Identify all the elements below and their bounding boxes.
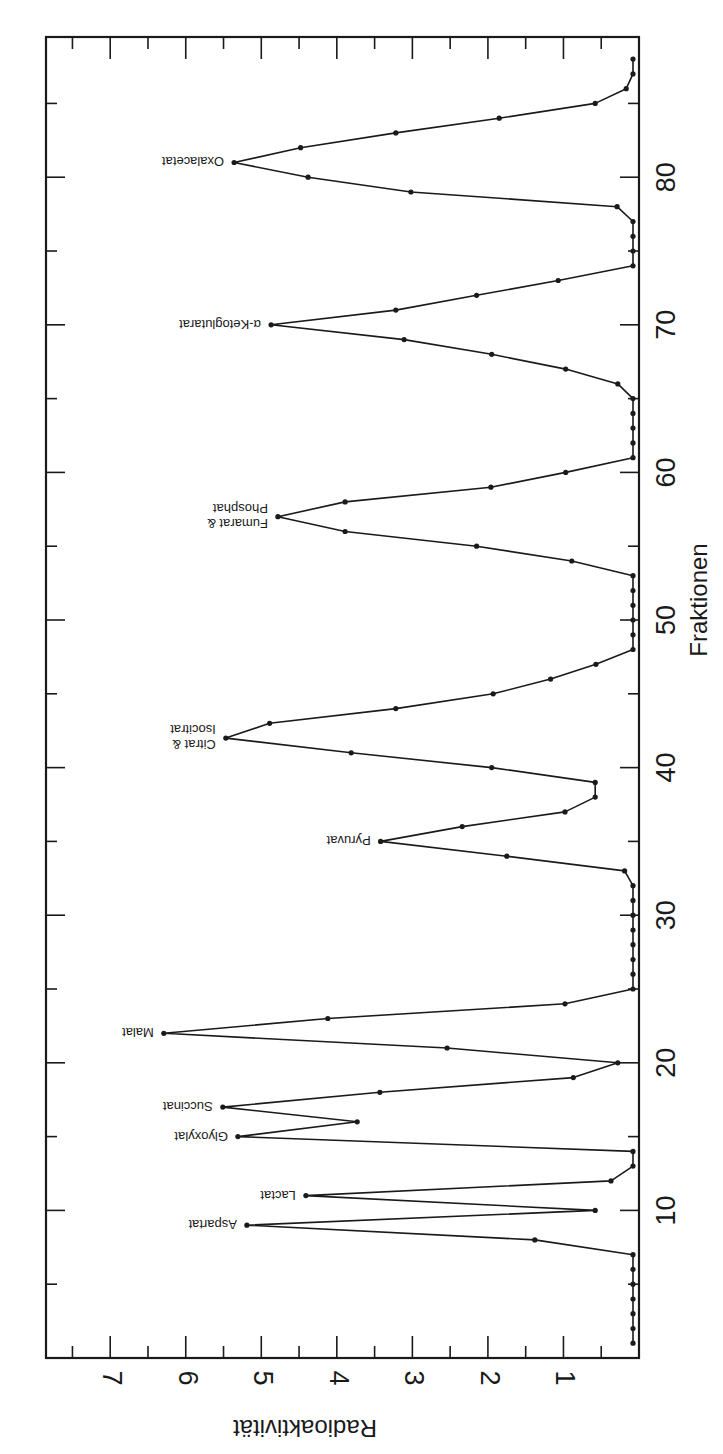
- data-point: [630, 1296, 635, 1301]
- peak-label: Fumarat &Phosphat: [207, 501, 268, 531]
- peak-label: Oxalacetat: [162, 154, 225, 169]
- data-point: [630, 632, 635, 637]
- data-point: [608, 1178, 613, 1183]
- fraction-tick-label: 60: [651, 457, 681, 487]
- data-point: [630, 396, 635, 401]
- radioactivity-tick-label: 6: [173, 1370, 203, 1385]
- data-point: [630, 1164, 635, 1169]
- radioactivity-tick-label: 1: [550, 1370, 580, 1385]
- data-point: [630, 1341, 635, 1346]
- radioactivity-tick-label: 3: [399, 1370, 429, 1385]
- fraction-axis-ticks: 1020304050607080: [46, 103, 681, 1284]
- data-point: [275, 514, 280, 519]
- data-point: [630, 986, 635, 991]
- fraction-tick-label: 20: [651, 1048, 681, 1078]
- data-point: [306, 175, 311, 180]
- data-point: [569, 558, 574, 563]
- data-point: [393, 706, 398, 711]
- fraction-tick-label: 50: [651, 605, 681, 635]
- peak-label: Glyoxylat: [174, 1129, 228, 1144]
- data-point: [630, 455, 635, 460]
- data-point: [571, 1075, 576, 1080]
- data-point: [489, 352, 494, 357]
- fraction-tick-label: 10: [651, 1195, 681, 1225]
- data-point: [298, 145, 303, 150]
- data-point: [355, 1119, 360, 1124]
- radioactivity-tick-label: 5: [248, 1370, 278, 1385]
- data-point: [343, 529, 348, 534]
- data-point: [630, 957, 635, 962]
- data-point: [532, 1237, 537, 1242]
- fraction-tick-label: 70: [651, 310, 681, 340]
- data-point: [630, 234, 635, 239]
- data-point: [269, 322, 274, 327]
- data-point: [563, 470, 568, 475]
- data-point: [402, 337, 407, 342]
- data-point: [630, 573, 635, 578]
- data-point: [615, 381, 620, 386]
- data-point: [563, 367, 568, 372]
- fraction-tick-label: 40: [651, 753, 681, 783]
- data-point: [630, 426, 635, 431]
- data-point: [630, 1311, 635, 1316]
- data-point: [593, 662, 598, 667]
- data-point: [488, 485, 493, 490]
- data-point: [630, 440, 635, 445]
- data-point: [593, 1208, 598, 1213]
- data-point: [489, 765, 494, 770]
- data-point: [615, 204, 620, 209]
- data-point: [593, 101, 598, 106]
- peak-label: Malat: [122, 1025, 154, 1040]
- data-point: [630, 1282, 635, 1287]
- radioactivity-axis-ticks: 1234567: [72, 37, 601, 1386]
- data-point: [630, 248, 635, 253]
- data-point: [630, 71, 635, 76]
- peak-label: Succinat: [163, 1099, 213, 1114]
- data-point: [630, 1267, 635, 1272]
- data-point: [630, 927, 635, 932]
- data-point: [378, 839, 383, 844]
- peak-labels: AspartatLactatGlyoxylatSuccinatMalatPyru…: [122, 154, 371, 1232]
- fraction-tick-label: 30: [651, 900, 681, 930]
- data-point: [556, 278, 561, 283]
- data-point: [267, 721, 272, 726]
- data-point: [630, 263, 635, 268]
- y-axis-title: Radioaktivität: [233, 1415, 377, 1442]
- data-point: [343, 499, 348, 504]
- radioactivity-tick-label: 7: [97, 1370, 127, 1385]
- data-point: [630, 588, 635, 593]
- data-point: [630, 57, 635, 62]
- data-point: [445, 1045, 450, 1050]
- data-point: [630, 913, 635, 918]
- data-point: [232, 160, 237, 165]
- fraction-tick-label: 80: [651, 162, 681, 192]
- data-point: [630, 898, 635, 903]
- data-point: [630, 1326, 635, 1331]
- data-point: [615, 1060, 620, 1065]
- data-point: [630, 411, 635, 416]
- data-point: [630, 219, 635, 224]
- data-point: [325, 1016, 330, 1021]
- data-point: [223, 736, 228, 741]
- peak-label: Aspartat: [188, 1217, 237, 1232]
- data-point: [408, 189, 413, 194]
- data-point: [504, 854, 509, 859]
- radioactivity-tick-label: 2: [475, 1370, 505, 1385]
- data-point: [622, 868, 627, 873]
- data-point: [630, 617, 635, 622]
- data-point: [303, 1193, 308, 1198]
- data-point: [161, 1031, 166, 1036]
- peak-label: Pyruvat: [326, 833, 370, 848]
- data-point: [548, 677, 553, 682]
- data-point: [630, 1149, 635, 1154]
- data-point: [630, 1252, 635, 1257]
- data-point: [474, 544, 479, 549]
- plot-frame: [46, 37, 639, 1358]
- data-point: [377, 1090, 382, 1095]
- data-point: [460, 824, 465, 829]
- data-point: [220, 1105, 225, 1110]
- data-point: [349, 750, 354, 755]
- data-point: [562, 1001, 567, 1006]
- data-point: [393, 308, 398, 313]
- data-point: [593, 795, 598, 800]
